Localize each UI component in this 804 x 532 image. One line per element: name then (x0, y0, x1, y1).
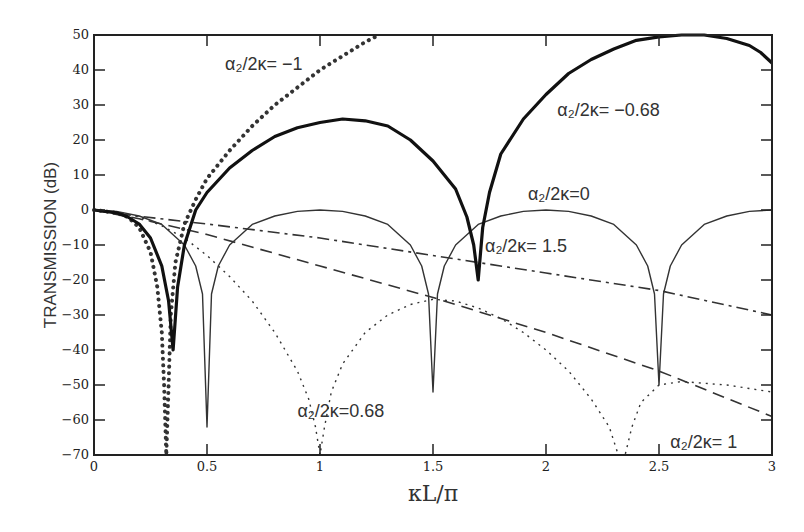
x-tick-label: 1.5 (423, 459, 444, 474)
series-layer (94, 35, 772, 455)
x-tick-label: 0 (90, 459, 98, 474)
transmission-chart: 00.511.522.5350403020100−10−20−30−40−50−… (0, 0, 804, 532)
series-annotation: α₂/2κ= 1 (670, 432, 737, 452)
series-line-3 (94, 210, 772, 315)
y-tick-label: 0 (81, 202, 89, 217)
y-tick-label: 10 (72, 167, 89, 182)
series-annotation: α₂/2κ= −0.68 (557, 100, 659, 120)
series-annotation: α₂/2κ= −1 (225, 54, 302, 74)
y-tick-label: −10 (62, 237, 89, 252)
series-line-5 (94, 35, 772, 350)
series-line-4 (94, 35, 379, 455)
series-line-0 (94, 210, 772, 427)
x-tick-label: 0.5 (197, 459, 218, 474)
y-tick-label: 20 (72, 132, 89, 147)
series-annotation: α₂/2κ=0.68 (297, 401, 384, 421)
y-tick-label: −40 (62, 342, 89, 357)
y-tick-label: 50 (72, 27, 89, 42)
y-tick-label: 30 (72, 97, 89, 112)
y-axis-label: TRANSMISSION (dB) (41, 162, 60, 328)
series-annotation: α₂/2κ=0 (528, 184, 590, 204)
series-line-1 (94, 210, 772, 455)
y-tick-label: −20 (62, 272, 89, 287)
series-annotation: α₂/2κ= 1.5 (485, 236, 567, 256)
y-tick-label: −50 (62, 377, 89, 392)
y-tick-label: −30 (62, 307, 89, 322)
x-tick-label: 2.5 (649, 459, 670, 474)
x-tick-label: 3 (768, 459, 776, 474)
y-tick-label: 40 (72, 62, 89, 77)
y-tick-label: −70 (62, 447, 89, 462)
y-tick-label: −60 (62, 412, 89, 427)
x-axis-label: κL/π (408, 481, 458, 506)
x-tick-label: 2 (542, 459, 550, 474)
x-tick-label: 1 (316, 459, 324, 474)
